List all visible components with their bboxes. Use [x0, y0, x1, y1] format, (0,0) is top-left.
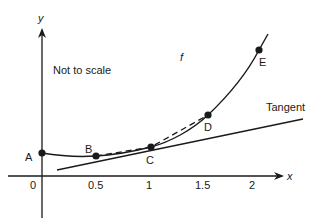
- not-to-scale-note: Not to scale: [53, 64, 111, 76]
- x-axis-label: x: [286, 170, 293, 182]
- point-e: [255, 46, 262, 53]
- x-tick-1-5: 1.5: [195, 179, 210, 191]
- point-c: [147, 143, 154, 150]
- x-tick-0: 0: [30, 179, 36, 191]
- function-label: f: [180, 51, 184, 63]
- point-d-label: D: [204, 121, 212, 133]
- point-a-label: A: [25, 151, 33, 163]
- graph-diagram: x y 0 0.5 1 1.5 2 Not to scale Tangent f…: [0, 0, 320, 220]
- x-tick-2: 2: [249, 179, 255, 191]
- point-c-label: C: [146, 154, 154, 166]
- tangent-line: [57, 119, 303, 170]
- x-tick-1: 1: [146, 179, 152, 191]
- point-e-label: E: [259, 56, 266, 68]
- point-b-label: B: [85, 143, 92, 155]
- y-axis-label: y: [37, 12, 45, 24]
- curve-f: [42, 34, 268, 156]
- point-b: [92, 152, 99, 159]
- x-tick-0-5: 0.5: [88, 179, 103, 191]
- point-a: [38, 149, 45, 156]
- point-d: [204, 111, 211, 118]
- tangent-label: Tangent: [266, 101, 305, 113]
